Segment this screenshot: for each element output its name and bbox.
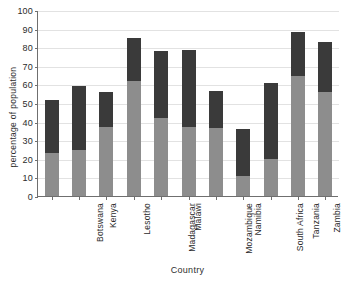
x-axis-tick <box>52 197 53 200</box>
plot-area: 0102030405060708090100BotswanaKenyaLesot… <box>37 11 338 197</box>
bar-segment-upper <box>291 32 305 76</box>
bar-segment-upper <box>72 86 86 150</box>
bar-stack <box>45 100 59 196</box>
bar-segment-upper <box>318 42 332 92</box>
x-axis-tick-label: Namibia <box>252 203 262 236</box>
x-axis-tick <box>325 197 326 200</box>
bar-segment-lower <box>99 127 113 196</box>
bar-segment-lower <box>291 76 305 196</box>
bar-stack <box>291 32 305 196</box>
y-axis-tick-label: 90 <box>23 25 33 35</box>
x-axis-tick <box>106 197 107 200</box>
bar-segment-upper <box>154 51 168 118</box>
bar-segment-upper <box>236 129 250 176</box>
x-axis-tick <box>298 197 299 200</box>
y-axis-title: percentage of population <box>8 42 18 192</box>
x-axis-tick <box>216 197 217 200</box>
x-axis-tick-label: Malawi <box>193 203 203 231</box>
bar-stack <box>209 91 223 196</box>
y-axis-tick-label: 20 <box>23 155 33 165</box>
bar-stack <box>318 42 332 196</box>
x-axis-title: Country <box>37 265 338 275</box>
y-axis-tick-label: 10 <box>23 173 33 183</box>
y-axis-tick-label: 0 <box>28 192 33 202</box>
bar-segment-upper <box>209 91 223 128</box>
bar-segment-upper <box>182 50 196 127</box>
y-axis-tick <box>35 104 38 105</box>
bar-stack <box>72 86 86 196</box>
bar-stack <box>182 50 196 196</box>
x-axis-tick <box>161 197 162 200</box>
x-axis-tick <box>79 197 80 200</box>
y-axis-tick-label: 70 <box>23 62 33 72</box>
bar-stack <box>264 83 278 196</box>
y-axis-tick-label: 40 <box>23 118 33 128</box>
chart-figure: percentage of population 010203040506070… <box>0 0 345 282</box>
bar-stack <box>127 38 141 196</box>
y-axis-tick <box>35 11 38 12</box>
x-axis-tick <box>243 197 244 200</box>
x-axis-tick <box>134 197 135 200</box>
bar-stack <box>236 129 250 196</box>
bar-stack <box>154 51 168 196</box>
y-axis-tick <box>35 67 38 68</box>
bar-segment-lower <box>264 159 278 196</box>
x-axis-tick <box>189 197 190 200</box>
x-axis-tick-label: South Africa <box>295 203 305 251</box>
y-axis-tick-label: 100 <box>17 6 33 16</box>
bar-stack <box>99 92 113 196</box>
bar-segment-lower <box>72 150 86 196</box>
bar-segment-upper <box>264 83 278 158</box>
y-axis-tick <box>35 30 38 31</box>
x-axis-tick-label: Zambia <box>332 203 342 233</box>
bar-segment-upper <box>127 38 141 81</box>
bar-segment-lower <box>45 153 59 196</box>
y-axis-tick <box>35 160 38 161</box>
x-axis-tick-label: Lesotho <box>142 203 152 235</box>
bar-segment-lower <box>209 128 223 196</box>
y-axis-tick-label: 50 <box>23 99 33 109</box>
bar-segment-lower <box>154 118 168 196</box>
x-axis-tick-label: Kenya <box>108 203 118 228</box>
y-axis-tick <box>35 123 38 124</box>
x-axis-tick-label: Botswana <box>95 203 105 242</box>
bar-segment-upper <box>99 92 113 127</box>
x-axis-tick-label: Tanzania <box>310 203 320 239</box>
x-axis-tick <box>271 197 272 200</box>
y-axis-tick <box>35 85 38 86</box>
y-axis-tick <box>35 178 38 179</box>
chart-title-strip <box>0 0 345 7</box>
y-axis-tick <box>35 141 38 142</box>
y-axis-tick <box>35 197 38 198</box>
y-axis-tick-label: 60 <box>23 80 33 90</box>
y-axis-tick-label: 30 <box>23 136 33 146</box>
bar-segment-lower <box>236 176 250 196</box>
bar-segment-upper <box>45 100 59 153</box>
bar-segment-lower <box>127 81 141 196</box>
y-gridline <box>38 30 339 31</box>
y-axis-tick-label: 80 <box>23 43 33 53</box>
y-gridline <box>38 11 339 12</box>
y-axis-tick <box>35 48 38 49</box>
bar-segment-lower <box>318 92 332 196</box>
bar-segment-lower <box>182 127 196 196</box>
